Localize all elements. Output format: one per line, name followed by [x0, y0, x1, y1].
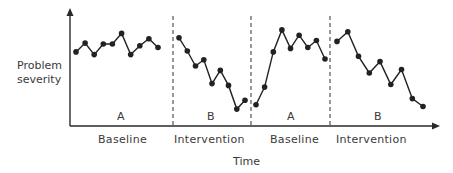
- data-point: [82, 40, 88, 46]
- data-point: [110, 41, 116, 47]
- phase-dividers: [173, 16, 330, 126]
- phase-name-baseline-2: Baseline: [270, 134, 319, 145]
- data-point: [345, 29, 351, 35]
- data-point: [242, 98, 248, 104]
- data-point: [296, 32, 302, 38]
- data-point: [314, 38, 320, 44]
- data-point: [209, 81, 215, 87]
- data-point: [234, 106, 240, 112]
- y-axis-arrow-icon: [67, 8, 74, 16]
- data-point: [73, 49, 79, 55]
- data-point: [305, 45, 311, 51]
- phase-letter-b1: B: [207, 111, 215, 122]
- phase-name-intervention-1: Intervention: [174, 134, 245, 145]
- data-point: [356, 54, 362, 60]
- data-point: [334, 39, 340, 45]
- data-point: [155, 45, 161, 51]
- y-axis-label-line2: severity: [17, 73, 62, 87]
- series-line: [337, 32, 423, 107]
- data-point: [377, 59, 383, 65]
- data-point: [399, 67, 405, 73]
- data-point: [101, 41, 107, 47]
- x-axis-arrow-icon: [432, 123, 440, 130]
- phase-letter-a2: A: [287, 111, 295, 122]
- data-point: [128, 52, 134, 58]
- y-axis-label-line1: Problem: [17, 59, 62, 73]
- phase-series-2: [176, 35, 248, 112]
- data-point: [91, 52, 97, 58]
- data-point: [176, 35, 182, 41]
- data-point: [279, 27, 285, 33]
- data-point: [271, 49, 277, 55]
- data-point: [420, 104, 426, 110]
- data-point: [201, 57, 207, 63]
- data-series: [73, 27, 426, 112]
- data-point: [193, 63, 199, 69]
- data-point: [262, 84, 268, 90]
- data-point: [288, 46, 294, 52]
- y-axis-label: Problem severity: [17, 59, 62, 87]
- data-point: [218, 68, 224, 74]
- series-line: [179, 38, 245, 109]
- phase-series-3: [253, 27, 328, 107]
- data-point: [388, 82, 394, 88]
- data-point: [137, 43, 143, 49]
- phase-series-1: [73, 31, 161, 58]
- phase-name-baseline-1: Baseline: [98, 134, 147, 145]
- data-point: [322, 56, 328, 62]
- data-point: [367, 70, 373, 76]
- data-point: [146, 36, 152, 42]
- data-point: [226, 83, 232, 89]
- phase-letter-b2: B: [374, 111, 382, 122]
- data-point: [410, 96, 416, 102]
- phase-name-intervention-2: Intervention: [336, 134, 407, 145]
- series-line: [76, 33, 158, 54]
- phase-letter-a1: A: [117, 111, 125, 122]
- abab-line-chart: [0, 0, 453, 173]
- data-point: [253, 102, 259, 108]
- phase-series-4: [334, 29, 426, 109]
- x-axis-label: Time: [233, 156, 260, 167]
- data-point: [185, 48, 191, 54]
- data-point: [119, 31, 125, 37]
